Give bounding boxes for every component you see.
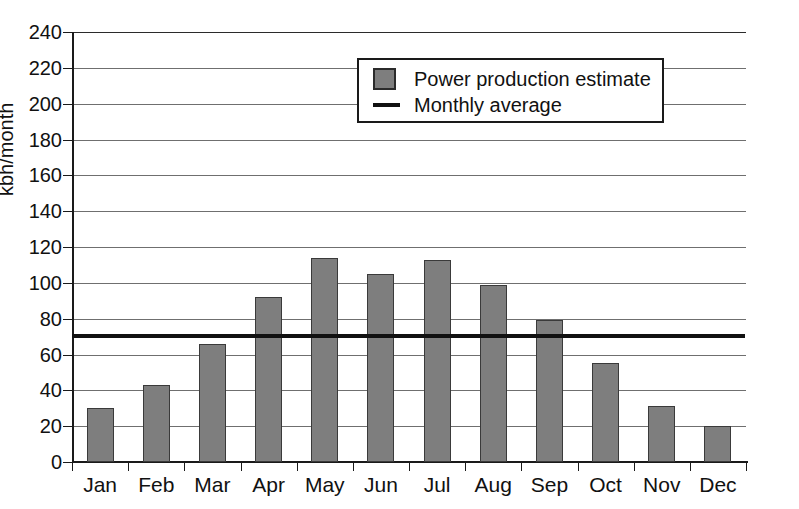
x-tick — [409, 463, 410, 471]
legend-label: Monthly average — [414, 94, 562, 116]
y-tick — [63, 390, 72, 391]
y-tick — [63, 140, 72, 141]
y-tick — [63, 355, 72, 356]
legend-item-power-production-estimate: Power production estimate — [373, 66, 651, 92]
bar-mar — [199, 344, 226, 462]
x-tick — [521, 463, 522, 471]
x-tick — [128, 463, 129, 471]
bar-chart: kbh/month 020406080100120140160180200220… — [0, 0, 799, 509]
y-tick — [63, 32, 72, 33]
y-tick — [63, 211, 72, 212]
x-tick — [690, 463, 691, 471]
y-tick-label: 40 — [8, 380, 62, 400]
bar-apr — [255, 297, 282, 462]
y-tick-label: 160 — [8, 165, 62, 185]
x-tick — [634, 463, 635, 471]
monthly-average-line — [72, 334, 745, 338]
y-tick-label: 100 — [8, 273, 62, 293]
chart-legend: Power production estimate Monthly averag… — [357, 58, 664, 123]
legend-swatch-wrap — [373, 103, 408, 107]
y-tick — [63, 247, 72, 248]
y-tick — [63, 462, 72, 463]
legend-swatch-wrap — [373, 68, 408, 90]
y-tick-label: 80 — [8, 309, 62, 329]
x-label-dec: Dec — [681, 474, 755, 496]
x-tick — [297, 463, 298, 471]
bar-jul — [424, 260, 451, 462]
x-tick — [746, 463, 747, 471]
bar-jun — [367, 274, 394, 462]
bar-may — [311, 258, 338, 462]
y-tick — [63, 175, 72, 176]
bar-nov — [648, 406, 675, 462]
clipped-title-remnant — [0, 0, 799, 6]
bar-aug — [480, 285, 507, 462]
y-tick-label: 200 — [8, 94, 62, 114]
y-tick — [63, 283, 72, 284]
y-tick-label: 120 — [8, 237, 62, 257]
y-tick — [63, 68, 72, 69]
y-tick-label: 60 — [8, 345, 62, 365]
y-tick-label: 0 — [8, 452, 62, 472]
y-tick — [63, 426, 72, 427]
y-tick-label: 180 — [8, 130, 62, 150]
bar-dec — [704, 426, 731, 462]
bar-feb — [143, 385, 170, 462]
filled-square-icon — [373, 68, 396, 90]
y-tick-label: 240 — [8, 22, 62, 42]
y-tick — [63, 104, 72, 105]
y-tick-label: 20 — [8, 416, 62, 436]
horizontal-line-icon — [373, 103, 400, 107]
x-tick — [578, 463, 579, 471]
x-tick — [241, 463, 242, 471]
bar-jan — [87, 408, 114, 462]
x-tick — [353, 463, 354, 471]
bar-sep — [536, 320, 563, 462]
y-tick — [63, 319, 72, 320]
bar-oct — [592, 363, 619, 462]
y-tick-label: 140 — [8, 201, 62, 221]
x-tick — [184, 463, 185, 471]
y-tick-label: 220 — [8, 58, 62, 78]
legend-label: Power production estimate — [414, 68, 651, 90]
x-tick — [72, 463, 73, 471]
x-tick — [465, 463, 466, 471]
legend-item-monthly-average: Monthly average — [373, 92, 562, 118]
